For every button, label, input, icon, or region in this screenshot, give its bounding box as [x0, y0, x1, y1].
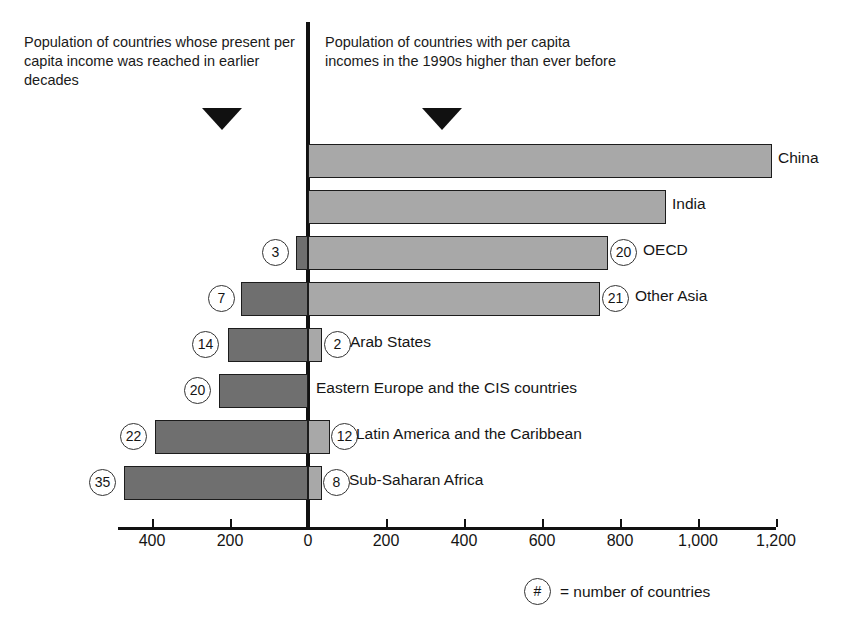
- bar-row: 320OECD: [0, 230, 853, 276]
- bar-right-highest-ever: [308, 328, 322, 362]
- down-triangle-right-icon: [422, 108, 462, 130]
- bar-row: 2212Latin America and the Caribbean: [0, 414, 853, 460]
- x-axis-tick: [152, 519, 154, 527]
- x-axis-tick: [542, 519, 544, 527]
- x-axis-tick: [386, 519, 388, 527]
- bar-left-earlier-decades: [296, 236, 308, 270]
- down-triangle-left-icon: [202, 108, 242, 130]
- country-count-badge-right: 12: [331, 423, 358, 450]
- bar-right-highest-ever: [308, 236, 608, 270]
- bar-row: 142Arab States: [0, 322, 853, 368]
- bar-left-earlier-decades: [219, 374, 308, 408]
- x-axis-tick: [620, 519, 622, 527]
- bar-right-highest-ever: [308, 190, 666, 224]
- country-count-badge-left: 35: [89, 469, 116, 496]
- bar-row: China: [0, 138, 853, 184]
- bar-right-highest-ever: [308, 144, 772, 178]
- bar-row-label: China: [778, 149, 819, 167]
- x-axis-tick-label: 1,200: [756, 532, 796, 550]
- country-count-badge-right: 2: [324, 331, 351, 358]
- country-count-badge-left: 14: [192, 331, 219, 358]
- bar-row: 721Other Asia: [0, 276, 853, 322]
- x-axis-tick-label: 1,000: [678, 532, 718, 550]
- bar-row-label: Latin America and the Caribbean: [356, 425, 582, 443]
- bar-row: India: [0, 184, 853, 230]
- x-axis-tick: [776, 519, 778, 527]
- country-count-badge-right: 21: [602, 285, 629, 312]
- x-axis-tick: [698, 519, 700, 527]
- x-axis-tick: [308, 519, 310, 527]
- bar-right-highest-ever: [308, 466, 322, 500]
- bar-row-label: India: [672, 195, 706, 213]
- bar-row-label: OECD: [643, 241, 688, 259]
- x-axis-tick-label: 0: [304, 532, 313, 550]
- bar-right-highest-ever: [308, 420, 330, 454]
- x-axis-tick-label: 400: [139, 532, 166, 550]
- bar-row-label: Eastern Europe and the CIS countries: [316, 379, 577, 397]
- legend: # = number of countries: [524, 578, 710, 605]
- bar-row: 358Sub-Saharan Africa: [0, 460, 853, 506]
- x-axis-line: [118, 527, 776, 530]
- bar-row-label: Other Asia: [635, 287, 707, 305]
- x-axis-tick: [230, 519, 232, 527]
- bar-row-label: Arab States: [350, 333, 431, 351]
- bar-row: 20Eastern Europe and the CIS countries: [0, 368, 853, 414]
- bar-row-label: Sub-Saharan Africa: [349, 471, 483, 489]
- x-axis-tick-label: 400: [451, 532, 478, 550]
- bar-rows: ChinaIndia320OECD721Other Asia142Arab St…: [0, 138, 853, 506]
- bar-left-earlier-decades: [124, 466, 308, 500]
- bar-right-highest-ever: [308, 282, 600, 316]
- legend-label: = number of countries: [560, 583, 710, 601]
- bar-left-earlier-decades: [228, 328, 308, 362]
- country-count-badge-left: 22: [120, 423, 147, 450]
- caption-right: Population of countries with per capita …: [325, 33, 625, 71]
- bar-left-earlier-decades: [155, 420, 308, 454]
- bar-left-earlier-decades: [241, 282, 308, 316]
- country-count-badge-right: 8: [323, 469, 350, 496]
- chart-container: Population of countries whose present pe…: [0, 0, 853, 629]
- x-axis-tick-label: 800: [607, 532, 634, 550]
- x-axis-tick-label: 600: [529, 532, 556, 550]
- country-count-badge-left: 7: [208, 285, 235, 312]
- country-count-badge-left: 20: [184, 377, 211, 404]
- caption-left: Population of countries whose present pe…: [24, 33, 304, 90]
- country-count-badge-left: 3: [262, 239, 289, 266]
- x-axis-tick-label: 200: [217, 532, 244, 550]
- x-axis-tick: [464, 519, 466, 527]
- country-count-badge-right: 20: [610, 239, 637, 266]
- legend-badge-icon: #: [524, 578, 551, 605]
- x-axis-tick-label: 200: [373, 532, 400, 550]
